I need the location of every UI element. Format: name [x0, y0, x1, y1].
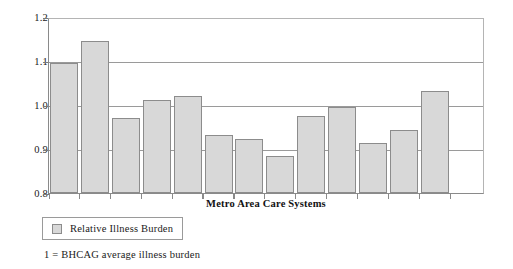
bar [390, 130, 418, 193]
bar [359, 143, 387, 193]
chart-footnote: 1 = BHCAG average illness burden [44, 249, 200, 261]
bar [143, 100, 171, 193]
y-axis: 1.21.11.00.90.8 [0, 0, 48, 212]
legend-swatch-icon [52, 224, 62, 234]
y-tick-label-1.1: 1.1 [8, 57, 48, 67]
y-tick-label-1.2: 1.2 [8, 13, 48, 23]
y-tick-label-1.0: 1.0 [8, 101, 48, 111]
bar [266, 156, 294, 193]
bar [235, 139, 263, 193]
chart-legend: Relative Illness Burden [42, 217, 183, 240]
bar [81, 41, 109, 193]
illness-burden-bar-chart: 1.21.11.00.90.8 Metro Area Care Systems … [0, 0, 513, 269]
bar-series-relative-illness-burden [49, 19, 483, 193]
bar [50, 63, 78, 194]
y-tick-label-0.9: 0.9 [8, 145, 48, 155]
legend-label: Relative Illness Burden [70, 223, 173, 234]
x-axis-title: Metro Area Care Systems [48, 198, 484, 209]
bar [205, 135, 233, 193]
bar [297, 116, 325, 193]
bar [174, 96, 202, 193]
bar [328, 107, 356, 193]
bar [112, 118, 140, 193]
bar [421, 91, 449, 193]
y-tick-label-0.8: 0.8 [8, 189, 48, 199]
